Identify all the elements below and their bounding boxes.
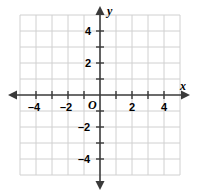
y-axis-label: y <box>107 5 112 17</box>
x-tick-label-neg4: –4 <box>28 102 40 113</box>
x-axis-label: x <box>180 80 186 92</box>
y-tick-label-neg2: –2 <box>78 122 90 133</box>
y-tick-label-neg4: –4 <box>78 154 90 165</box>
y-tick-label-pos2: 2 <box>85 58 91 69</box>
origin-label: O <box>88 99 97 111</box>
y-tick-label-pos4: 4 <box>85 26 91 37</box>
coordinate-plane: –4 –2 2 4 4 2 –2 –4 O y x <box>0 0 198 194</box>
x-tick-label-pos4: 4 <box>161 102 167 113</box>
x-tick-label-neg2: –2 <box>60 102 72 113</box>
x-tick-label-pos2: 2 <box>129 102 135 113</box>
coordinate-grid-svg <box>0 0 198 194</box>
